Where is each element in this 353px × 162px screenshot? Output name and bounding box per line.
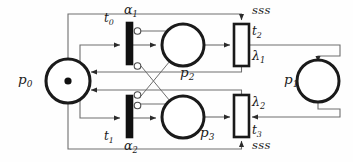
- transition-label-t1: t1: [104, 130, 114, 142]
- rate-label-lambda2: λ2: [252, 96, 265, 109]
- rate-label-alpha2: α2: [124, 140, 138, 153]
- inhibitor-circle-t0-top: [134, 28, 141, 35]
- inhibitor-circle-t1-top: [134, 92, 141, 99]
- arc-p0-to-t2: [68, 14, 242, 59]
- rate-label-alpha1: α1: [124, 4, 138, 17]
- transition-label-t3: t3: [252, 124, 262, 136]
- petri-net-canvas: [0, 0, 353, 162]
- inhibitor-circle-t1-bottom: [134, 102, 141, 109]
- place-label-p0: p0: [18, 73, 32, 87]
- guard-label-sss-top: sss: [252, 5, 271, 17]
- transition-label-t2: t2: [252, 25, 262, 37]
- arc-layer-outer: [68, 14, 242, 149]
- transition-t0[interactable]: [126, 22, 133, 65]
- place-p3[interactable]: [162, 96, 204, 138]
- place-p1[interactable]: [297, 60, 339, 102]
- transition-t1[interactable]: [126, 95, 133, 138]
- place-p2[interactable]: [162, 24, 204, 66]
- token-p0: [64, 77, 71, 84]
- inhibitor-p3-to-t0: [141, 66, 170, 101]
- place-label-p3: p3: [200, 126, 214, 140]
- rate-label-lambda1: λ1: [252, 50, 265, 63]
- guard-label-sss-bottom: sss: [252, 140, 271, 152]
- transition-label-t0: t0: [104, 12, 114, 24]
- transition-t2[interactable]: [234, 24, 249, 66]
- place-label-p1: p1: [284, 73, 298, 87]
- arc-layer-feedback: [91, 66, 242, 95]
- inhibitor-p2-to-t1: [141, 61, 170, 96]
- arc-p0-to-t3: [68, 103, 242, 149]
- transition-t3[interactable]: [234, 95, 249, 137]
- place-label-p2: p2: [180, 66, 194, 80]
- inhibitor-circle-t0-bottom: [134, 63, 141, 70]
- petri-net-diagram: p0 p1 p2 p3 t0 α1 t1 α2 t2 λ1 sss t3 λ2 …: [0, 0, 353, 162]
- arc-p1-to-t3: [252, 102, 340, 117]
- arc-t3-to-p0: [91, 90, 242, 95]
- arc-t2-to-p0: [91, 66, 242, 72]
